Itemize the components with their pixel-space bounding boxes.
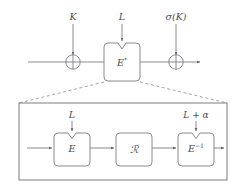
tweak-label: L <box>118 11 125 22</box>
expansion-connector-group <box>19 82 227 103</box>
round-function-label: ℛ <box>130 143 139 155</box>
figure-container: K L E* σ(K) <box>0 0 240 192</box>
top-row-group: K L E* σ(K) <box>28 11 200 81</box>
diagram-canvas: K L E* σ(K) <box>0 0 240 192</box>
detail-right-tweak-label: L + α <box>182 110 208 120</box>
key-label: K <box>68 11 77 22</box>
encrypt-block-label: E <box>68 143 76 154</box>
xor-gate-left <box>66 55 80 69</box>
decrypt-block <box>178 133 214 166</box>
detail-panel-group: L E ℛ L + α E−1 <box>19 103 227 180</box>
dashed-line-left <box>19 82 104 103</box>
xor-gate-right <box>169 55 183 69</box>
sigma-key-label: σ(K) <box>166 11 187 22</box>
detail-left-tweak-label: L <box>68 109 75 120</box>
dashed-line-right <box>140 82 227 103</box>
